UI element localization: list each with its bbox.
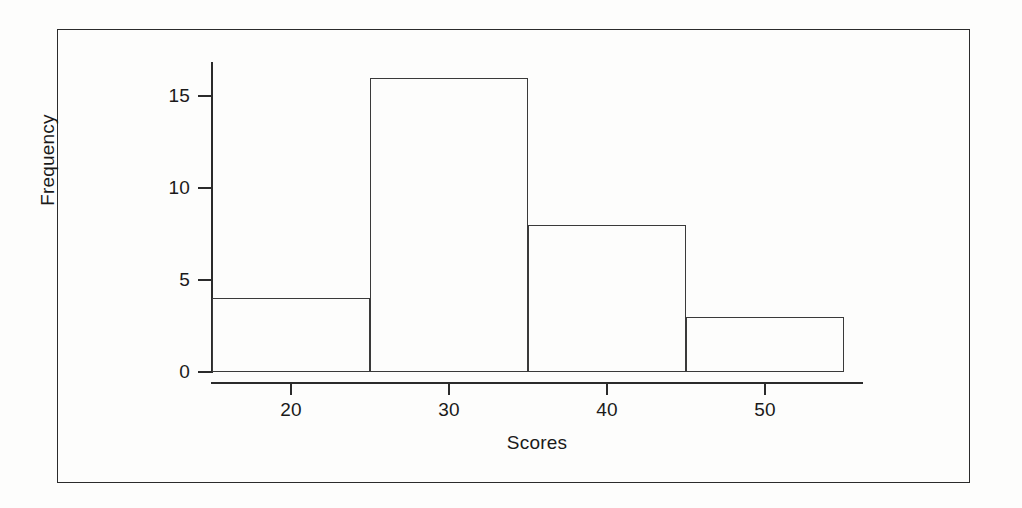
histogram-bar xyxy=(528,225,686,372)
y-tick-mark-15 xyxy=(198,95,212,97)
y-tick-mark-0 xyxy=(198,371,212,373)
histogram-bar xyxy=(686,317,844,372)
y-tick-label-5: 5 xyxy=(148,270,190,289)
x-tick-label-50: 50 xyxy=(735,400,795,419)
y-tick-label-15: 15 xyxy=(148,86,190,105)
x-tick-mark-20 xyxy=(290,382,292,395)
histogram-bar xyxy=(370,78,528,372)
y-tick-label-10: 10 xyxy=(148,178,190,197)
x-tick-mark-40 xyxy=(606,382,608,395)
x-tick-label-40: 40 xyxy=(577,400,637,419)
x-tick-label-30: 30 xyxy=(419,400,479,419)
x-tick-mark-30 xyxy=(448,382,450,395)
y-tick-mark-5 xyxy=(198,279,212,281)
x-tick-mark-50 xyxy=(764,382,766,395)
x-tick-label-20: 20 xyxy=(261,400,321,419)
y-tick-mark-10 xyxy=(198,187,212,189)
histogram-plot: 0 5 10 15 20 30 40 50 Scores Frequency xyxy=(0,0,1022,508)
x-axis-title: Scores xyxy=(211,432,863,454)
y-tick-label-0: 0 xyxy=(148,362,190,381)
y-axis-title: Frequency xyxy=(36,80,60,240)
histogram-bar xyxy=(212,298,370,372)
